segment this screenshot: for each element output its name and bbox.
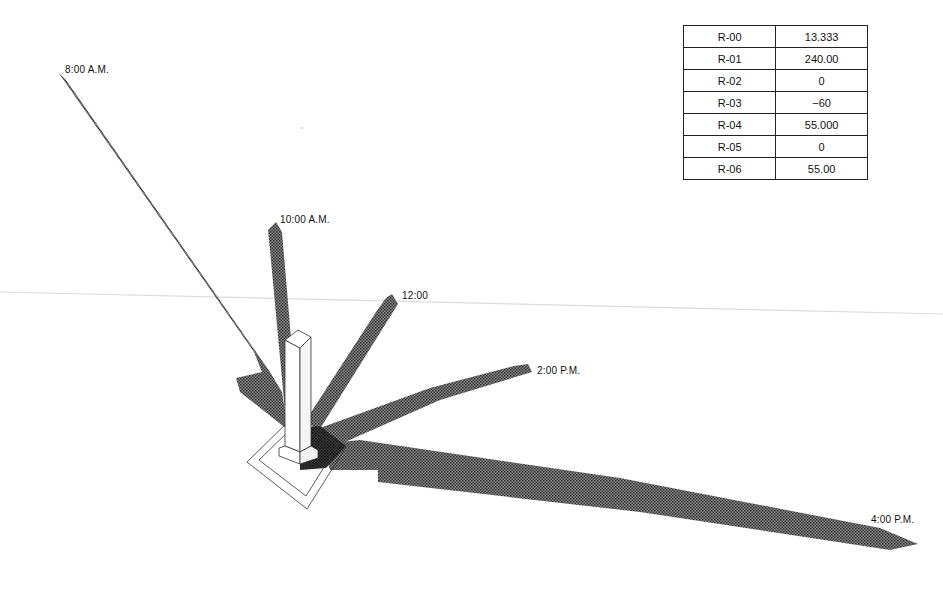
table-row: R-04 55.000	[684, 114, 868, 136]
table-row: R-01 240.00	[684, 48, 868, 70]
param-value: 0	[776, 70, 868, 92]
param-value: 0	[776, 136, 868, 158]
param-key: R-06	[684, 158, 776, 180]
label-0800: 8:00 A.M.	[65, 64, 109, 75]
param-key: R-04	[684, 114, 776, 136]
shadow-0800	[58, 72, 288, 430]
shadow-1600	[322, 440, 918, 550]
horizon-line	[0, 292, 943, 314]
param-value: 55.000	[776, 114, 868, 136]
param-key: R-00	[684, 26, 776, 48]
param-value: −60	[776, 92, 868, 114]
table-row: R-00 13.333	[684, 26, 868, 48]
label-1200: 12:00	[402, 290, 428, 301]
param-value: 13.333	[776, 26, 868, 48]
table-row: R-06 55.00	[684, 158, 868, 180]
parameter-table: R-00 13.333 R-01 240.00 R-02 0 R-03 −60 …	[683, 25, 868, 180]
stray-mark	[301, 127, 303, 129]
table-row: R-03 −60	[684, 92, 868, 114]
param-key: R-02	[684, 70, 776, 92]
param-value: 240.00	[776, 48, 868, 70]
param-key: R-01	[684, 48, 776, 70]
label-1600: 4:00 P.M.	[871, 514, 914, 525]
param-value: 55.00	[776, 158, 868, 180]
label-1000: 10:00 A.M.	[280, 214, 330, 225]
param-key: R-03	[684, 92, 776, 114]
param-key: R-05	[684, 136, 776, 158]
table-row: R-05 0	[684, 136, 868, 158]
table-row: R-02 0	[684, 70, 868, 92]
label-1400: 2:00 P.M.	[537, 365, 580, 376]
